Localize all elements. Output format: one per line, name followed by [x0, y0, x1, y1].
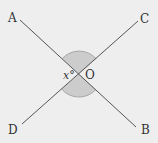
- label-a: A: [7, 11, 17, 25]
- intersecting-lines-diagram: A B C D O x°: [0, 0, 158, 143]
- line-cd: [22, 21, 138, 124]
- label-c: C: [140, 12, 149, 26]
- label-d: D: [8, 123, 18, 137]
- label-b: B: [141, 123, 150, 137]
- diagram-canvas: A B C D O x°: [0, 0, 158, 143]
- label-angle-x: x°: [63, 69, 75, 82]
- label-center-o: O: [85, 68, 95, 82]
